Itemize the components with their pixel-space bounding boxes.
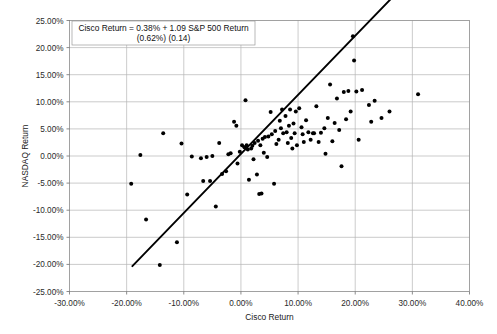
y-tick-label: 25.00% — [36, 17, 64, 26]
scatter-point — [269, 110, 273, 114]
scatter-point — [319, 131, 323, 135]
x-axis-title: Cisco Return — [245, 312, 294, 322]
scatter-point — [306, 130, 310, 134]
scatter-point — [247, 178, 251, 182]
scatter-point — [278, 119, 282, 123]
scatter-point — [297, 106, 301, 110]
scatter-point — [369, 120, 373, 124]
scatter-point — [352, 59, 356, 63]
scatter-point — [244, 98, 248, 102]
scatter-point — [290, 146, 294, 150]
scatter-point — [346, 89, 350, 93]
scatter-point — [344, 117, 348, 121]
scatter-point — [272, 182, 276, 186]
scatter-point — [337, 128, 341, 132]
x-tick-label: 30.00% — [398, 299, 426, 308]
annotation-equation: Cisco Return = 0.38% + 1.09 S&P 500 Retu… — [78, 23, 249, 33]
scatter-point — [138, 153, 142, 157]
scatter-point — [266, 134, 270, 138]
scatter-point — [199, 156, 203, 160]
scatter-point — [274, 142, 278, 146]
scatter-point — [180, 142, 184, 146]
scatter-point — [293, 131, 297, 135]
scatter-point — [367, 103, 371, 107]
scatter-point — [284, 114, 288, 118]
scatter-point — [129, 182, 133, 186]
scatter-point — [258, 143, 262, 147]
y-tick-label: 20.00% — [36, 44, 64, 53]
chart-canvas: 25.00%20.00%15.00%10.00%5.00%0.00%-5.00%… — [0, 0, 497, 334]
scatter-point — [286, 141, 290, 145]
scatter-point — [236, 162, 240, 166]
scatter-point — [229, 151, 233, 155]
scatter-point — [322, 126, 326, 130]
scatter-point — [214, 204, 218, 208]
scatter-point — [190, 155, 194, 159]
scatter-point — [357, 138, 361, 142]
scatter-point — [388, 110, 392, 114]
scatter-point — [294, 110, 298, 114]
scatter-point — [304, 118, 308, 122]
scatter-point — [328, 82, 332, 86]
scatter-point — [273, 129, 277, 133]
scatter-point — [300, 125, 304, 129]
scatter-point — [340, 164, 344, 168]
x-tick-label: 20.00% — [341, 299, 369, 308]
scatter-point — [287, 124, 291, 128]
scatter-point — [309, 138, 313, 142]
scatter-point — [234, 124, 238, 128]
scatter-point — [208, 179, 212, 183]
scatter-point — [342, 90, 346, 94]
scatter-point — [295, 143, 299, 147]
scatter-point — [255, 172, 259, 176]
y-tick-label: 0.00% — [40, 152, 63, 161]
chart-background — [0, 0, 497, 334]
scatter-point — [260, 191, 264, 195]
scatter-point — [263, 135, 267, 139]
scatter-point — [252, 157, 256, 161]
y-tick-label: -5.00% — [38, 179, 64, 188]
scatter-point — [265, 155, 269, 159]
regression-annotation: Cisco Return = 0.38% + 1.09 S&P 500 Retu… — [72, 21, 255, 45]
scatter-point — [326, 116, 330, 120]
scatter-point — [312, 131, 316, 135]
scatter-point — [210, 154, 214, 158]
y-tick-label: -10.00% — [33, 206, 64, 215]
scatter-point — [158, 263, 162, 267]
y-tick-label: -15.00% — [33, 233, 64, 242]
scatter-point — [317, 140, 321, 144]
scatter-point — [301, 132, 305, 136]
scatter-point — [256, 139, 260, 143]
scatter-point — [324, 152, 328, 156]
scatter-point — [161, 131, 165, 135]
scatter-point — [380, 116, 384, 120]
scatter-point — [373, 99, 377, 103]
scatter-point — [281, 131, 285, 135]
scatter-point — [314, 104, 318, 108]
scatter-point — [279, 126, 283, 130]
scatter-point — [289, 136, 293, 140]
scatter-point — [292, 121, 296, 125]
scatter-point — [217, 141, 221, 145]
y-tick-label: 5.00% — [40, 125, 63, 134]
scatter-point — [333, 121, 337, 125]
scatter-point — [288, 107, 292, 111]
scatter-point — [360, 88, 364, 92]
x-tick-label: 40.00% — [456, 299, 484, 308]
y-tick-label: 15.00% — [36, 71, 64, 80]
scatter-point — [302, 140, 306, 144]
scatter-point — [330, 139, 334, 143]
x-tick-label: 10.00% — [284, 299, 312, 308]
y-tick-label: 10.00% — [36, 98, 64, 107]
scatter-chart-figure: 25.00%20.00%15.00%10.00%5.00%0.00%-5.00%… — [0, 0, 497, 334]
x-tick-label: -20.00% — [111, 299, 142, 308]
scatter-point — [175, 240, 179, 244]
y-tick-label: -20.00% — [33, 260, 64, 269]
scatter-point — [144, 217, 148, 221]
scatter-point — [205, 155, 209, 159]
x-tick-label: -30.00% — [54, 299, 85, 308]
scatter-point — [232, 120, 236, 124]
scatter-point — [335, 97, 339, 101]
scatter-point — [262, 151, 266, 155]
scatter-point — [285, 130, 289, 134]
